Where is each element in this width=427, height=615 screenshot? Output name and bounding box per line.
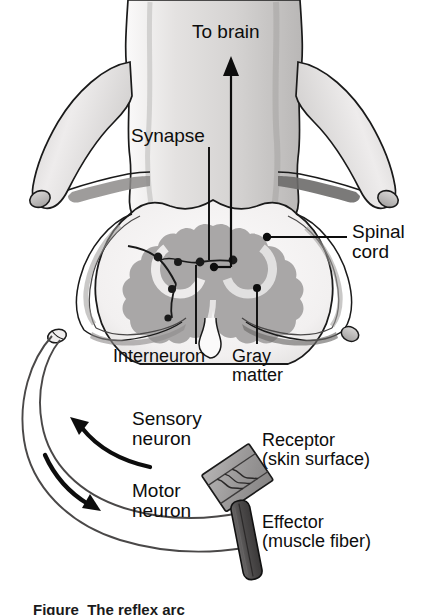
dorsal-root-ganglion	[46, 327, 68, 345]
label-motor-neuron-line1: Motor	[132, 480, 181, 501]
label-receptor-line2: (skin surface)	[262, 449, 370, 469]
label-gray-matter-line1: Gray	[232, 346, 271, 366]
label-effector-line2: (muscle fiber)	[262, 531, 371, 551]
label-effector-line1: Effector	[262, 512, 324, 532]
figure-canvas: To brain Synapse Spinalcord Interneuron …	[0, 0, 427, 615]
label-effector: Effector(muscle fiber)	[262, 513, 371, 551]
label-synapse: Synapse	[131, 126, 205, 146]
label-spinal-cord-line2: cord	[352, 241, 389, 262]
label-sensory-neuron-line1: Sensory	[132, 408, 202, 429]
label-spinal-cord: Spinalcord	[352, 222, 405, 262]
label-sensory-neuron: Sensoryneuron	[132, 409, 202, 449]
label-gray-matter: Graymatter	[232, 347, 283, 385]
label-receptor-line1: Receptor	[262, 430, 335, 450]
label-motor-neuron-line2: neuron	[132, 500, 191, 521]
effector-muscle-fiber	[230, 499, 264, 581]
label-gray-matter-line2: matter	[232, 365, 283, 385]
label-sensory-neuron-line2: neuron	[132, 428, 191, 449]
label-interneuron: Interneuron	[113, 347, 205, 366]
label-receptor: Receptor(skin surface)	[262, 431, 370, 469]
figure-caption: Figure The reflex arc	[33, 601, 185, 615]
label-motor-neuron: Motorneuron	[132, 481, 191, 521]
label-spinal-cord-line1: Spinal	[352, 221, 405, 242]
label-to-brain: To brain	[192, 22, 260, 42]
motor-direction-arrow	[45, 455, 101, 511]
